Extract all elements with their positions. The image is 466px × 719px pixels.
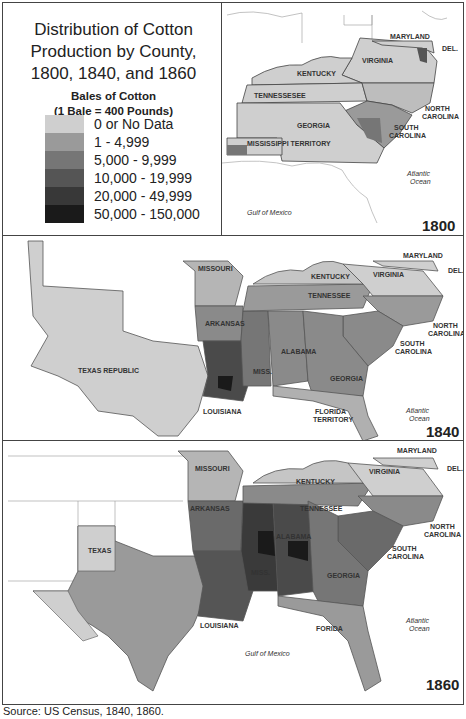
label-tennessee: TENNESSEE bbox=[300, 505, 343, 512]
label-atlantic: Atlantic bbox=[405, 617, 429, 624]
map-1860-graphic: MISSOURI ARKANSAS TEXAS LOUISIANA MISS. … bbox=[3, 441, 464, 705]
map-1860: MISSOURI ARKANSAS TEXAS LOUISIANA MISS. … bbox=[2, 440, 464, 705]
source-note: Source: US Census, 1840, 1860. bbox=[3, 705, 164, 717]
label-tennessee: TENNESSEE bbox=[308, 292, 351, 299]
legend-swatch bbox=[45, 133, 84, 151]
legend-item: 5,000 - 9,999 bbox=[45, 151, 177, 169]
title-line-3: 1800, 1840, and 1860 bbox=[3, 63, 223, 85]
label-georgia: GEORGIA bbox=[327, 572, 360, 579]
label-south-carolina: SOUTH bbox=[392, 545, 417, 552]
label-missouri: MISSOURI bbox=[195, 465, 230, 472]
legend-swatch bbox=[45, 187, 84, 205]
legend-swatch bbox=[45, 205, 84, 223]
label-alabama: ALABAMA bbox=[281, 348, 316, 355]
label-georgia: GEORGIA bbox=[297, 122, 330, 129]
label-gulf-of-mexico: Gulf of Mexico bbox=[245, 650, 290, 657]
legend-swatch bbox=[45, 151, 84, 169]
legend-item: 20,000 - 49,999 bbox=[45, 187, 192, 205]
label-louisiana: LOUISIANA bbox=[200, 622, 239, 629]
label-virginia: VIRGINIA bbox=[373, 271, 404, 278]
label-georgia: GEORGIA bbox=[330, 375, 363, 382]
label-ocean: Ocean bbox=[409, 415, 430, 422]
label-maryland: MARYLAND bbox=[403, 252, 443, 259]
county-dark bbox=[227, 145, 247, 155]
state-missouri bbox=[178, 451, 243, 501]
year-label-1860: 1860 bbox=[426, 676, 459, 693]
subtitle-line-1: Bales of Cotton bbox=[3, 89, 223, 104]
label-del: DEL. bbox=[448, 267, 464, 274]
title-line-1: Distribution of Cotton bbox=[3, 19, 223, 41]
year-label-1800: 1800 bbox=[422, 217, 455, 234]
label-alabama: ALABAMA bbox=[276, 533, 311, 540]
label-virginia: VIRGINIA bbox=[362, 57, 393, 64]
label-arkansas: ARKANSAS bbox=[205, 320, 245, 327]
title-line-2: Production by County, bbox=[3, 41, 223, 63]
legend-label: 5,000 - 9,999 bbox=[94, 152, 177, 168]
label-north-carolina: NORTH bbox=[430, 523, 455, 530]
label-north-carolina-2: CAROLINA bbox=[424, 531, 461, 538]
legend-item: 50,000 - 150,000 bbox=[45, 205, 200, 223]
label-south-carolina-2: CAROLINA bbox=[395, 348, 432, 355]
label-florida-territory: TERRITORY bbox=[313, 416, 353, 423]
label-north-carolina-2: CAROLINA bbox=[422, 113, 459, 120]
label-florida: FLORIDA bbox=[315, 408, 346, 415]
label-north-carolina-2: CAROLINA bbox=[428, 330, 464, 337]
legend-panel: Distribution of Cotton Production by Cou… bbox=[2, 2, 223, 237]
label-atlantic: Atlantic bbox=[406, 170, 430, 177]
state-texas-republic bbox=[28, 241, 208, 436]
label-arkansas: ARKANSAS bbox=[190, 505, 230, 512]
label-tennessee: TENNESSESEE bbox=[254, 92, 306, 99]
year-label-1840: 1840 bbox=[426, 423, 459, 440]
label-virginia: VIRGINIA bbox=[369, 468, 400, 475]
label-del: DEL. bbox=[442, 45, 458, 52]
label-gulf-of-mexico: Gulf of Mexico bbox=[247, 209, 292, 216]
legend-item: 1 - 4,999 bbox=[45, 133, 149, 151]
label-mississippi: MISS. bbox=[253, 368, 272, 375]
label-kentucky: KENTUCKY bbox=[297, 70, 336, 77]
florida-coast bbox=[222, 161, 377, 223]
label-louisiana: LOUISIANA bbox=[203, 408, 242, 415]
label-ocean: Ocean bbox=[409, 625, 430, 632]
label-mississippi-territory: MISSISSIPPI TERRITORY bbox=[247, 140, 331, 147]
label-south-carolina: SOUTH bbox=[394, 124, 419, 131]
label-north-carolina: NORTH bbox=[433, 322, 458, 329]
label-atlantic: Atlantic bbox=[405, 407, 429, 414]
label-missouri: MISSOURI bbox=[198, 265, 233, 272]
label-maryland: MARYLAND bbox=[390, 33, 430, 40]
legend-label: 50,000 - 150,000 bbox=[94, 206, 200, 222]
state-florida bbox=[278, 596, 381, 691]
label-south-carolina: SOUTH bbox=[400, 340, 425, 347]
label-mississippi: MISS. bbox=[251, 569, 270, 576]
legend-item: 10,000 - 19,999 bbox=[45, 169, 192, 187]
map-1840: MISSOURI ARKANSAS TEXAS REPUBLIC LOUISIA… bbox=[2, 235, 464, 442]
legend-item: 0 or No Data bbox=[45, 115, 173, 133]
label-kentucky: KENTUCKY bbox=[296, 478, 335, 485]
legend-swatch bbox=[45, 169, 84, 187]
legend-label: 0 or No Data bbox=[94, 116, 173, 132]
map-title: Distribution of Cotton Production by Cou… bbox=[3, 19, 223, 85]
label-south-carolina-2: CAROLINA bbox=[389, 132, 426, 139]
label-south-carolina-2: CAROLINA bbox=[387, 553, 424, 560]
label-north-carolina: NORTH bbox=[425, 105, 450, 112]
legend-label: 1 - 4,999 bbox=[94, 134, 149, 150]
label-texas-republic: TEXAS REPUBLIC bbox=[78, 367, 139, 374]
legend-label: 20,000 - 49,999 bbox=[94, 188, 192, 204]
map-1800-graphic: MARYLAND DEL. VIRGINIA KENTUCKY TENNESSE… bbox=[222, 3, 464, 237]
map-1840-graphic: MISSOURI ARKANSAS TEXAS REPUBLIC LOUISIA… bbox=[3, 236, 464, 442]
map-1800: MARYLAND DEL. VIRGINIA KENTUCKY TENNESSE… bbox=[221, 2, 464, 237]
legend-label: 10,000 - 19,999 bbox=[94, 170, 192, 186]
label-del: DEL. bbox=[447, 465, 463, 472]
label-texas: TEXAS bbox=[88, 547, 112, 554]
label-maryland: MARYLAND bbox=[397, 447, 437, 454]
label-florida: FORIDA bbox=[316, 625, 343, 632]
label-kentucky: KENTUCKY bbox=[311, 273, 350, 280]
legend-swatch bbox=[45, 115, 84, 133]
county-darkest bbox=[258, 531, 275, 556]
label-ocean: Ocean bbox=[410, 178, 431, 185]
